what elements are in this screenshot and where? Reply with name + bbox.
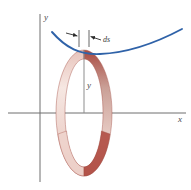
generating-curve bbox=[52, 29, 182, 54]
ds-label: ds bbox=[103, 35, 110, 44]
height-segment-label: y bbox=[86, 80, 91, 90]
figure-canvas: y x y ds bbox=[0, 0, 191, 190]
arc-element-annotation: ds bbox=[66, 30, 110, 47]
revolved-band-front-overlap bbox=[58, 131, 110, 176]
band-front-left-shadow bbox=[58, 131, 84, 176]
ds-arrow-left bbox=[66, 33, 77, 36]
x-axis-label: x bbox=[177, 114, 182, 124]
band-front-right-shadow bbox=[84, 131, 110, 176]
ds-arrow-right bbox=[91, 37, 101, 41]
surface-of-revolution-diagram: y x y ds bbox=[0, 0, 191, 190]
y-axis-label: y bbox=[43, 12, 48, 22]
